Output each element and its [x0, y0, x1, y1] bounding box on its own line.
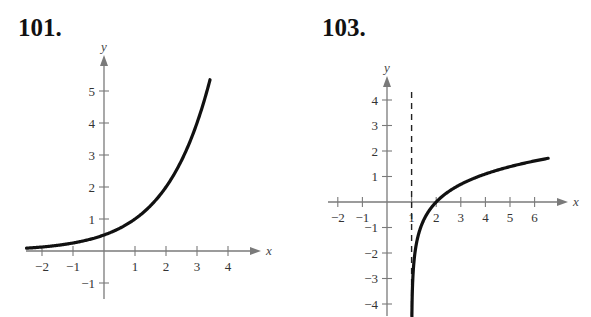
y-tick-label: 3: [372, 118, 379, 133]
function-curve: [27, 80, 211, 248]
function-curve: [412, 158, 548, 316]
x-tick-label: −2: [331, 210, 345, 225]
y-tick-label: 1: [89, 212, 96, 227]
y-tick-label: 3: [89, 148, 96, 163]
y-tick-label: −1: [364, 220, 378, 235]
x-axis-label: x: [572, 194, 579, 209]
y-axis-arrow-icon: [383, 76, 391, 87]
y-tick-label: −1: [81, 276, 95, 291]
y-tick-label: −2: [364, 246, 378, 261]
y-axis-label: y: [382, 60, 390, 75]
x-tick-label: 4: [225, 259, 232, 274]
y-tick-label: −3: [364, 271, 378, 286]
chart-103: xy−2−1123456−4−3−2−11234: [328, 60, 579, 316]
y-tick-label: 1: [372, 169, 379, 184]
y-tick-label: 5: [89, 84, 96, 99]
y-axis-arrow-icon: [100, 55, 108, 66]
x-tick-label: 2: [433, 210, 440, 225]
x-tick-label: 1: [132, 259, 139, 274]
x-axis-label: x: [265, 243, 272, 258]
x-tick-label: 4: [482, 210, 489, 225]
x-tick-label: −1: [66, 259, 80, 274]
x-tick-label: 5: [507, 210, 514, 225]
x-axis-arrow-icon: [557, 198, 568, 206]
y-tick-label: 4: [89, 116, 96, 131]
y-tick-label: 4: [372, 93, 379, 108]
y-tick-label: 2: [89, 180, 96, 195]
x-tick-label: −2: [35, 259, 49, 274]
y-axis-label: y: [99, 39, 107, 54]
x-axis-arrow-icon: [250, 247, 261, 255]
y-tick-label: −4: [364, 297, 378, 312]
x-tick-label: 2: [163, 259, 170, 274]
y-tick-label: 2: [372, 144, 379, 159]
x-tick-label: 3: [458, 210, 465, 225]
chart-101: xy−2−11234−112345: [26, 39, 272, 299]
charts-canvas: xy−2−11234−112345xy−2−1123456−4−3−2−1123…: [0, 0, 591, 317]
x-tick-label: 6: [531, 210, 538, 225]
x-tick-label: 3: [194, 259, 201, 274]
